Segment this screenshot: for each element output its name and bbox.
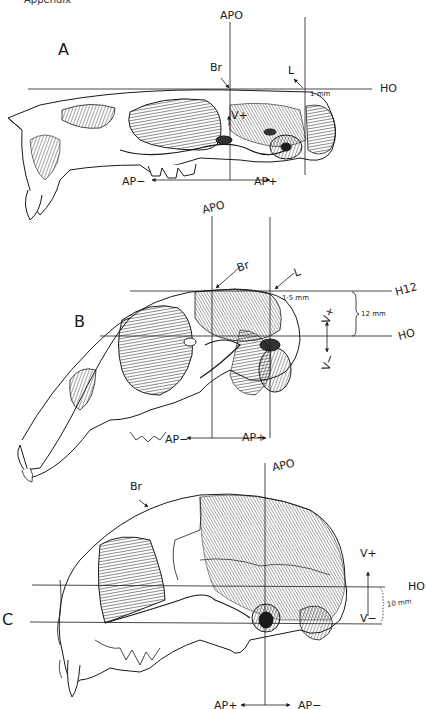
label-vminus-c: V− (360, 613, 377, 624)
label-br-c: Br (130, 481, 142, 492)
label-apminus-c: AP− (298, 700, 321, 709)
label-l-a: L (288, 65, 294, 76)
skull-diagrams (0, 0, 426, 709)
skull-c (58, 494, 347, 697)
panel-letter-a: A (58, 40, 69, 59)
label-scale-small-b: 1·5 mm (282, 295, 309, 302)
panel-letter-b: B (74, 312, 85, 331)
skull-b (18, 289, 300, 482)
label-br-a: Br (210, 62, 222, 73)
panel-letter-c: C (2, 610, 13, 629)
label-applus-b: AP+ (242, 432, 265, 443)
label-apminus-a: AP− (122, 176, 145, 187)
label-scale-a: 1 mm (310, 91, 330, 98)
label-vplus-a: V+ (231, 110, 248, 121)
label-ho-a: HO (380, 83, 397, 94)
label-apo-a: APO (220, 10, 243, 21)
label-applus-c: AP+ (214, 700, 237, 709)
label-vplus-c: V+ (360, 548, 377, 559)
label-ho-c: HO (408, 581, 425, 592)
label-applus-a: AP+ (254, 176, 277, 187)
label-apminus-b: AP− (165, 434, 188, 445)
skull-a (8, 90, 336, 220)
label-scale-gap-b: 12 mm (361, 311, 386, 318)
